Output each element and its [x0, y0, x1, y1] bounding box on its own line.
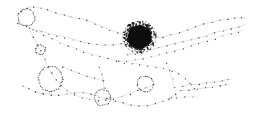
track-point: [174, 43, 175, 44]
track-point: [110, 95, 111, 96]
track-point: [61, 74, 62, 75]
track-point: [102, 105, 103, 106]
dwell-point: [154, 34, 156, 36]
track-point: [238, 26, 239, 27]
track-point: [145, 76, 146, 77]
track-point: [90, 94, 91, 95]
track-point: [139, 64, 140, 65]
dwell-point: [148, 45, 150, 47]
dwell-point: [123, 37, 125, 39]
dwell-point: [141, 25, 142, 26]
track-point: [125, 28, 126, 29]
track-point: [44, 59, 45, 60]
dwell-point: [152, 40, 153, 41]
track-point: [18, 13, 19, 14]
track-point: [60, 43, 61, 44]
track-point: [238, 32, 239, 33]
track-point: [94, 23, 95, 24]
track-point: [191, 84, 192, 85]
dwell-point: [127, 30, 128, 31]
track-point: [174, 51, 175, 52]
track-point: [96, 44, 97, 45]
track-point: [58, 88, 59, 89]
track-point: [56, 67, 57, 68]
track-point: [37, 77, 38, 78]
track-point: [113, 44, 114, 45]
track-point: [182, 86, 183, 87]
track-point: [35, 52, 36, 53]
dwell-point: [127, 25, 129, 27]
track-point: [43, 45, 44, 46]
track-point: [22, 85, 23, 86]
track-point: [51, 72, 52, 73]
track-point: [48, 34, 49, 35]
track-point: [138, 88, 139, 89]
dwell-point: [145, 25, 146, 26]
track-point: [151, 56, 152, 57]
track-point: [40, 86, 41, 87]
track-point: [109, 93, 110, 94]
track-point: [241, 17, 242, 18]
track-point: [86, 76, 87, 77]
track-point: [42, 89, 43, 90]
track-point: [19, 22, 20, 23]
track-point: [41, 45, 42, 46]
track-point: [155, 41, 156, 42]
track-point: [124, 63, 126, 65]
dwell-point: [150, 34, 152, 36]
dwell-point: [125, 44, 126, 45]
track-point: [225, 84, 226, 85]
track-point: [184, 96, 185, 97]
track-point: [130, 104, 131, 105]
track-point: [60, 85, 61, 86]
dwell-point: [130, 29, 132, 31]
track-point: [36, 31, 37, 32]
track-point: [56, 36, 57, 37]
track-point: [40, 44, 41, 45]
track-point: [43, 35, 44, 36]
track-point: [183, 41, 184, 42]
track-point: [148, 77, 149, 78]
dwell-point: [131, 27, 133, 29]
track-point: [33, 13, 34, 14]
dwell-point: [124, 41, 125, 42]
track-point: [189, 83, 190, 84]
dwell-point: [125, 39, 127, 41]
dwell-point: [143, 25, 144, 26]
track-point: [67, 90, 68, 91]
dwell-point: [139, 25, 140, 26]
track-point: [45, 47, 46, 48]
track-point: [56, 89, 57, 90]
dwell-point: [133, 22, 135, 24]
track-point: [71, 70, 72, 71]
track-point: [107, 58, 108, 59]
track-point: [29, 28, 30, 29]
track-point: [155, 67, 156, 68]
track-point: [42, 93, 43, 94]
track-point: [173, 78, 174, 79]
track-point: [41, 69, 42, 70]
track-point: [34, 17, 35, 18]
track-point: [139, 77, 140, 78]
track-point: [51, 38, 52, 39]
track-point: [183, 48, 184, 49]
dwell-point: [155, 36, 156, 37]
track-point: [64, 14, 65, 15]
track-point: [139, 89, 140, 90]
dwell-point: [144, 46, 145, 47]
dwell-point: [129, 42, 130, 43]
dwell-point: [127, 37, 129, 39]
dwell-point: [143, 23, 144, 24]
track-point: [36, 46, 37, 47]
dwell-point: [126, 36, 127, 37]
track-point: [143, 76, 144, 77]
track-point: [143, 91, 144, 92]
track-point: [33, 37, 34, 38]
dwell-point: [123, 31, 125, 33]
track-point: [222, 80, 223, 81]
track-point: [163, 68, 164, 69]
track-point: [146, 21, 147, 22]
track-polyline: [22, 86, 50, 93]
track-point: [83, 52, 84, 53]
track-point: [227, 79, 228, 80]
